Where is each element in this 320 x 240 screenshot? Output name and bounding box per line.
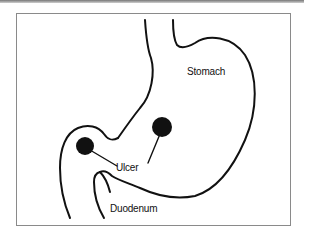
gastric-ulcer-crater — [152, 117, 172, 137]
stomach-label: Stomach — [187, 66, 225, 77]
duodenum-inner-wall — [94, 172, 104, 218]
duodenal-ulcer-crater — [76, 137, 94, 155]
ulcer-label: Ulcer — [116, 162, 138, 173]
duodenum-label: Duodenum — [110, 203, 157, 214]
